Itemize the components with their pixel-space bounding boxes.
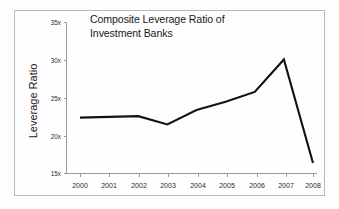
chart-title: Composite Leverage Ratio of Investment B… <box>90 13 290 40</box>
y-axis-title: Leverage Ratio <box>27 46 39 156</box>
x-tick-label-2003: 2003 <box>160 182 176 189</box>
chart-title-line-1: Composite Leverage Ratio of <box>90 13 290 27</box>
x-tick-label-2000: 2000 <box>72 182 88 189</box>
x-tick-label-2002: 2002 <box>131 182 147 189</box>
data-line-composite-leverage-ratio <box>80 59 313 162</box>
y-tick-label-20x: 20x <box>51 133 62 140</box>
x-tick-label-2005: 2005 <box>219 182 235 189</box>
x-tick-label-2007: 2007 <box>278 182 294 189</box>
y-tick-label-25x: 25x <box>51 95 62 102</box>
x-tick-label-2006: 2006 <box>249 182 265 189</box>
y-tick-label-15x: 15x <box>51 170 62 177</box>
x-tick-label-2008: 2008 <box>305 182 321 189</box>
y-tick-label-30x: 30x <box>51 57 62 64</box>
chart-title-line-2: Investment Banks <box>90 27 290 41</box>
x-tick-label-2004: 2004 <box>190 182 206 189</box>
y-tick-label-35x: 35x <box>51 19 62 26</box>
page-background: 35x 30x 25x 20x 15x 2000 2001 2002 2003 … <box>0 0 339 209</box>
x-tick-label-2001: 2001 <box>101 182 117 189</box>
